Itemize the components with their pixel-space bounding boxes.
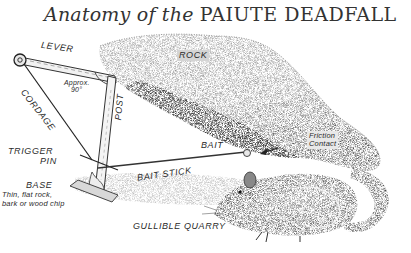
bait bbox=[244, 150, 251, 157]
label-angle-90: 90° bbox=[71, 86, 82, 93]
label-trigger: TRIGGER bbox=[8, 147, 53, 156]
label-bait: BAIT bbox=[201, 141, 223, 150]
rock bbox=[99, 34, 380, 170]
label-pin: PIN bbox=[40, 157, 57, 166]
label-gullible-quarry: GULLIBLE QUARRY bbox=[133, 222, 226, 231]
label-rock: ROCK bbox=[177, 50, 209, 61]
label-base-desc-line1: Thin, flat rock, bbox=[2, 191, 52, 199]
label-base: BASE bbox=[26, 181, 52, 190]
label-friction-contact: Friction Contact bbox=[307, 131, 338, 149]
illustration bbox=[0, 0, 411, 253]
title-prefix: Anatomy of the bbox=[44, 3, 200, 25]
label-friction-line2: Contact bbox=[309, 140, 336, 148]
label-approx: Approx. bbox=[64, 79, 90, 86]
bait-stick bbox=[98, 152, 246, 168]
label-base-desc-line2: bark or wood chip bbox=[2, 200, 65, 208]
deadfall-diagram: Anatomy of the PAIUTE DEADFALL LEVER COR… bbox=[0, 0, 411, 253]
title-emphasis: PAIUTE DEADFALL bbox=[200, 3, 397, 25]
diagram-title: Anatomy of the PAIUTE DEADFALL bbox=[44, 5, 397, 24]
